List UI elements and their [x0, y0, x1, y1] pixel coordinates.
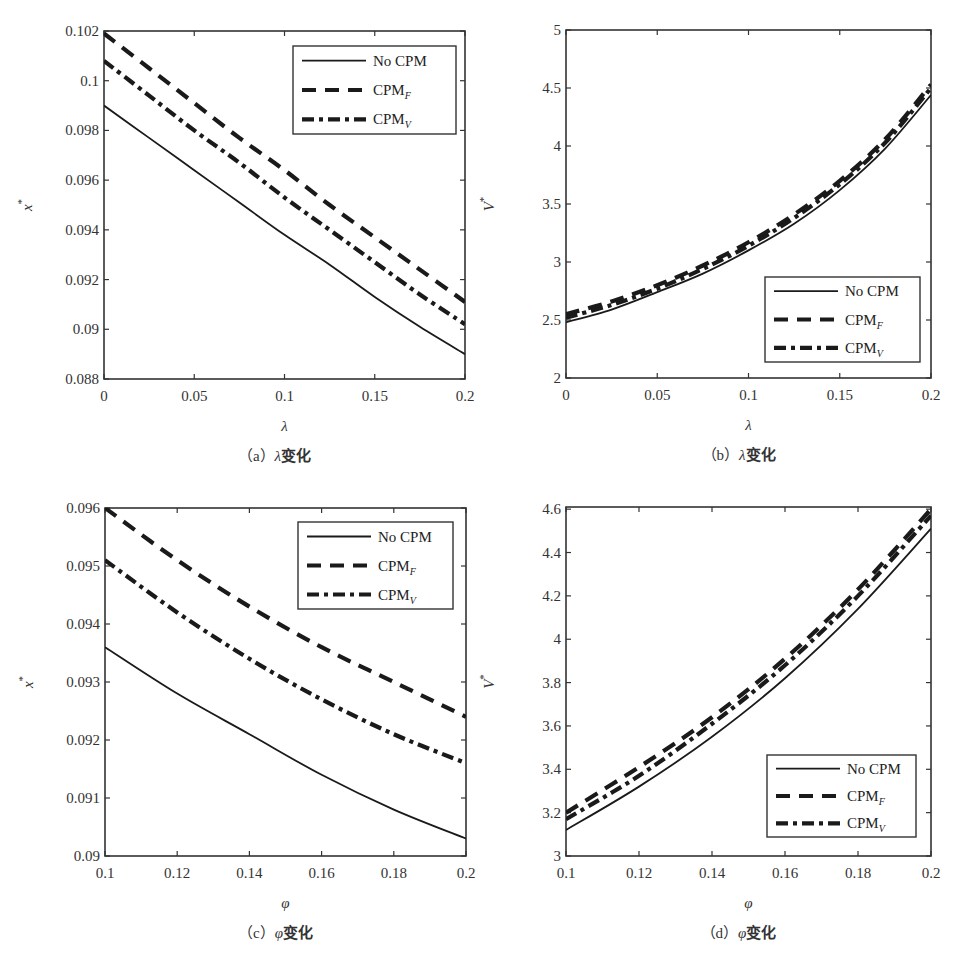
- legend: No CPMCPMFCPMV: [298, 522, 453, 609]
- y-tick-label: 4: [554, 631, 562, 647]
- y-axis-label: x*: [16, 676, 36, 689]
- y-tick-label: 3: [554, 848, 562, 864]
- y-tick-label: 0.1: [80, 73, 99, 89]
- y-tick-label: 4: [554, 138, 562, 154]
- legend-label: No CPM: [373, 53, 427, 69]
- panel-c: 0.10.120.140.160.180.20.090.0910.0920.09…: [16, 500, 475, 942]
- y-axis-label: V*: [477, 197, 497, 212]
- x-tick-label: 0.15: [362, 388, 388, 404]
- y-tick-label: 5: [554, 22, 562, 38]
- y-axis-label: x*: [15, 199, 35, 212]
- y-tick-label: 0.092: [65, 272, 99, 288]
- x-tick-label: 0.14: [236, 865, 263, 881]
- x-tick-label: 0: [100, 388, 108, 404]
- x-tick-label: 0.2: [456, 388, 475, 404]
- y-tick-label: 0.102: [65, 23, 99, 39]
- y-tick-label: 2.5: [542, 312, 561, 328]
- panel-caption: （d）φ变化: [701, 924, 777, 942]
- x-axis-label: φ: [744, 895, 752, 911]
- x-tick-label: 0.15: [827, 387, 853, 403]
- legend-label: No CPM: [378, 529, 432, 545]
- panel-b: 00.050.10.150.222.533.544.55λV*No CPMCPM…: [477, 22, 940, 464]
- x-tick-label: 0.18: [381, 865, 407, 881]
- series-line-no-cpm: [104, 106, 465, 355]
- y-tick-label: 3.4: [542, 761, 561, 777]
- x-tick-label: 0.2: [922, 387, 941, 403]
- panel-caption: （a）λ变化: [238, 447, 311, 465]
- legend: No CPMCPMFCPMV: [293, 46, 456, 134]
- x-tick-label: 0.14: [699, 865, 726, 881]
- x-tick-label: 0.2: [922, 865, 941, 881]
- x-tick-label: 0.05: [181, 388, 207, 404]
- x-tick-label: 0.1: [96, 865, 115, 881]
- legend: No CPMCPMFCPMV: [767, 755, 916, 837]
- x-tick-label: 0.1: [557, 865, 576, 881]
- x-tick-label: 0.18: [845, 865, 871, 881]
- y-tick-label: 0.093: [66, 674, 100, 690]
- y-tick-label: 0.094: [65, 222, 99, 238]
- y-tick-label: 0.09: [74, 848, 100, 864]
- x-axis-label: λ: [280, 418, 288, 434]
- figure-canvas: 00.050.10.150.20.0880.090.0920.0940.0960…: [0, 0, 962, 959]
- y-tick-label: 0.098: [65, 122, 99, 138]
- x-tick-label: 0.1: [739, 387, 758, 403]
- y-tick-label: 3.8: [542, 675, 561, 691]
- x-tick-label: 0.12: [164, 865, 190, 881]
- y-tick-label: 0.092: [66, 732, 100, 748]
- legend: No CPMCPMFCPMV: [765, 277, 920, 362]
- y-tick-label: 0.091: [66, 790, 100, 806]
- x-tick-label: 0.2: [457, 865, 476, 881]
- y-tick-label: 4.5: [542, 80, 561, 96]
- y-tick-label: 4.2: [542, 588, 561, 604]
- y-tick-label: 4.6: [542, 501, 561, 517]
- y-axis-label: V*: [477, 674, 497, 689]
- x-tick-label: 0.12: [626, 865, 652, 881]
- y-tick-label: 3.6: [542, 718, 561, 734]
- panel-caption: （c）φ变化: [238, 924, 313, 942]
- y-tick-label: 3: [554, 254, 562, 270]
- y-tick-label: 0.095: [66, 558, 100, 574]
- x-tick-label: 0.16: [772, 865, 799, 881]
- y-tick-label: 0.096: [66, 500, 100, 516]
- y-tick-label: 2: [554, 370, 562, 386]
- y-tick-label: 0.088: [65, 371, 99, 387]
- y-tick-label: 4.4: [542, 545, 561, 561]
- x-axis-label: λ: [744, 417, 752, 433]
- y-tick-label: 0.094: [66, 616, 100, 632]
- x-tick-label: 0.16: [308, 865, 335, 881]
- legend-label: No CPM: [847, 761, 901, 777]
- panel-d: 0.10.120.140.160.180.233.23.43.63.844.24…: [477, 501, 940, 942]
- x-tick-label: 0.1: [275, 388, 294, 404]
- legend-label: No CPM: [845, 283, 899, 299]
- panel-a: 00.050.10.150.20.0880.090.0920.0940.0960…: [15, 23, 474, 465]
- x-tick-label: 0: [562, 387, 570, 403]
- y-tick-label: 3.2: [542, 805, 561, 821]
- x-axis-label: φ: [281, 895, 289, 911]
- x-tick-label: 0.05: [644, 387, 670, 403]
- y-tick-label: 3.5: [542, 196, 561, 212]
- y-tick-label: 0.09: [73, 321, 99, 337]
- y-tick-label: 0.096: [65, 172, 99, 188]
- panel-caption: （b）λ变化: [702, 446, 776, 464]
